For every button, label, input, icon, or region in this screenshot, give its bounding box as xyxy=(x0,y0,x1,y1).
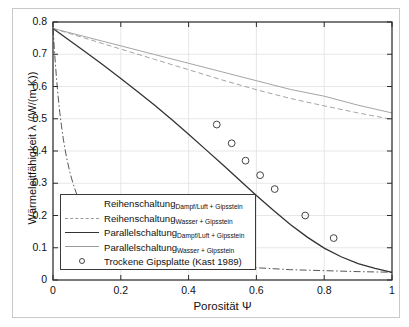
legend-label-subscript: Dampf/Luft + Gipsstein xyxy=(175,203,242,210)
legend-item: ReihenschaltungDampf/Luft + Gipsstein xyxy=(61,197,255,211)
plot-canvas xyxy=(0,0,409,327)
line-style-icon xyxy=(65,218,99,219)
legend-label: ParallelschaltungDampf/Luft + Gipsstein xyxy=(100,228,244,238)
chart-legend: ReihenschaltungDampf/Luft + GipssteinRei… xyxy=(60,194,256,270)
line-style-icon xyxy=(65,232,99,233)
legend-label-subscript: Dampf/Luft + Gipsstein xyxy=(177,232,244,239)
x-tick-label: 1 xyxy=(377,284,407,296)
legend-item: ReihenschaltungWasser + Gipsstein xyxy=(61,211,255,225)
line-style-icon xyxy=(65,246,99,247)
legend-swatch xyxy=(64,198,100,210)
legend-item: ParallelschaltungWasser + Gipsstein xyxy=(61,240,255,254)
legend-label: ReihenschaltungDampf/Luft + Gipsstein xyxy=(100,199,243,209)
legend-item: Trockene Gipsplatte (Kast 1989) xyxy=(61,255,255,269)
chart-figure: 00.10.20.30.40.50.60.70.8 00.20.40.60.81… xyxy=(0,0,409,327)
x-axis-label: Porosität Ψ xyxy=(53,300,392,312)
legend-swatch xyxy=(64,227,100,239)
legend-label-subscript: Wasser + Gipsstein xyxy=(175,218,232,225)
x-tick-label: 0.8 xyxy=(309,284,339,296)
circle-marker-icon xyxy=(79,258,85,264)
legend-label: ParallelschaltungWasser + Gipsstein xyxy=(100,243,234,253)
legend-swatch xyxy=(64,256,100,268)
legend-label: ReihenschaltungWasser + Gipsstein xyxy=(100,214,233,224)
x-tick-label: 0.2 xyxy=(106,284,136,296)
legend-label: Trockene Gipsplatte (Kast 1989) xyxy=(100,257,242,267)
x-tick-label: 0.6 xyxy=(241,284,271,296)
legend-swatch xyxy=(64,213,100,225)
x-tick-label: 0.4 xyxy=(174,284,204,296)
x-tick-label: 0 xyxy=(38,284,68,296)
y-tick-label: 0.8 xyxy=(17,15,47,27)
y-axis-label: Wärmeleitfähigkeit λ /(W/(m K)) xyxy=(26,38,38,258)
legend-item: ParallelschaltungDampf/Luft + Gipsstein xyxy=(61,226,255,240)
legend-label-subscript: Wasser + Gipsstein xyxy=(177,247,234,254)
legend-swatch xyxy=(64,241,100,253)
